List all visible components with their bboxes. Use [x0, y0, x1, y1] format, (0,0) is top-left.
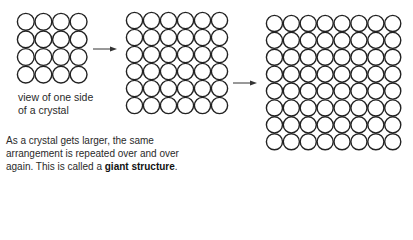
- caption-line-1: view of one side: [18, 91, 93, 104]
- giant-structure-term: giant structure: [105, 161, 175, 172]
- paragraph-line-3: again. This is called a giant structure.: [6, 160, 179, 173]
- paragraph-line-1: As a crystal gets larger, the same: [6, 134, 179, 147]
- crystal-caption: view of one side of a crystal: [18, 91, 93, 116]
- paragraph-line-3-end: .: [175, 161, 178, 172]
- paragraph-line-3-text: again. This is called a: [6, 161, 105, 172]
- arrow-head-icon: [250, 81, 257, 86]
- paragraph-line-2: arrangement is repeated over and over: [6, 147, 179, 160]
- description-paragraph: As a crystal gets larger, the same arran…: [6, 134, 179, 173]
- caption-line-2: of a crystal: [18, 104, 93, 117]
- arrow-head-icon: [110, 47, 117, 52]
